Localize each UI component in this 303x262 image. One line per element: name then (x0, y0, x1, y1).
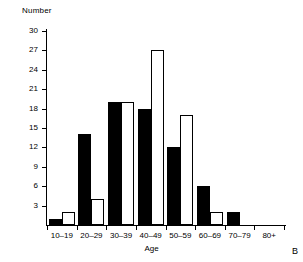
bar-filled (197, 186, 210, 225)
x-category-label: 60–69 (195, 231, 225, 240)
x-category-label: 30–39 (106, 231, 136, 240)
x-tick-mark (254, 226, 255, 230)
bar-group (77, 31, 107, 225)
bar-group (254, 31, 284, 225)
y-tick-label: 6 (12, 182, 38, 190)
y-tick-label: 3 (12, 202, 38, 210)
bar-group (136, 31, 166, 225)
bar-filled (227, 212, 240, 225)
bar-group (166, 31, 196, 225)
x-tick-mark (106, 226, 107, 230)
bar-open (62, 212, 75, 225)
panel-letter: B (292, 246, 298, 256)
bar-open (151, 50, 164, 225)
x-tick-mark (195, 226, 196, 230)
x-category-label: 80+ (254, 231, 284, 240)
plot-area (47, 31, 284, 225)
bar-filled (78, 134, 91, 225)
bar-filled (167, 147, 180, 225)
bar-group (225, 31, 255, 225)
x-tick-mark (166, 226, 167, 230)
y-tick-label: 27 (12, 46, 38, 54)
bar-group (47, 31, 77, 225)
x-category-label: 70–79 (225, 231, 255, 240)
bar-filled (108, 102, 121, 225)
bar-group (106, 31, 136, 225)
x-category-label: 20–29 (77, 231, 107, 240)
x-tick-mark (77, 226, 78, 230)
bar-open (210, 212, 223, 225)
y-tick-label: 30 (12, 27, 38, 35)
bar-filled (138, 109, 151, 225)
y-tick-label: 18 (12, 105, 38, 113)
y-tick-label: 12 (12, 143, 38, 151)
y-tick-label: 15 (12, 124, 38, 132)
x-axis-title: Age (0, 244, 303, 253)
chart-figure: Number 36912151821242730 10–1920–2930–39… (0, 0, 303, 262)
y-tick-label: 24 (12, 66, 38, 74)
x-tick-mark (225, 226, 226, 230)
bar-group (195, 31, 225, 225)
y-tick-label: 21 (12, 85, 38, 93)
x-tick-mark (136, 226, 137, 230)
x-category-label: 40–49 (136, 231, 166, 240)
bar-open (121, 102, 134, 225)
x-category-label: 10–19 (47, 231, 77, 240)
bar-open (180, 115, 193, 225)
y-tick-label: 9 (12, 163, 38, 171)
x-category-label: 50–59 (166, 231, 196, 240)
x-tick-mark (284, 226, 285, 230)
y-axis-title: Number (22, 6, 52, 15)
bar-filled (49, 219, 62, 225)
x-tick-mark (47, 226, 48, 230)
bar-open (91, 199, 104, 225)
